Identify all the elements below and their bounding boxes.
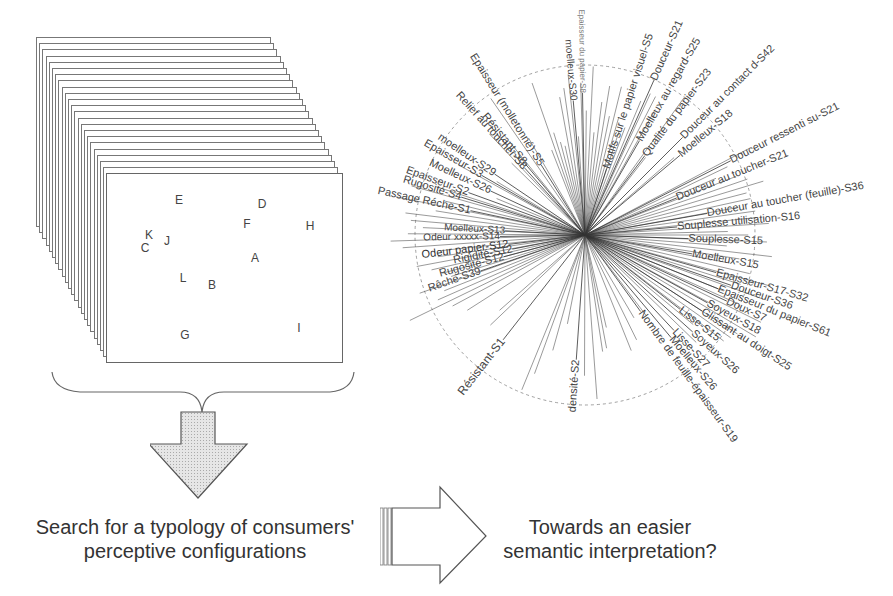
right-arrow-icon <box>380 485 490 585</box>
caption-right-line1: Towards an easier <box>490 515 730 539</box>
caption-left-line2: perceptive configurations <box>10 539 380 563</box>
caption-right-line2: semantic interpretation? <box>490 539 730 563</box>
product-point: E <box>175 193 183 207</box>
product-point: G <box>180 328 189 342</box>
product-point: D <box>258 197 267 211</box>
vector-line <box>585 235 693 325</box>
product-point: H <box>306 219 315 233</box>
vector-line <box>585 235 707 303</box>
down-arrow-icon <box>150 410 250 500</box>
product-point: F <box>243 217 250 231</box>
sample-sheets-stack: EDFHKJCALBGI <box>0 0 360 380</box>
variable-label: densité-S2 <box>566 359 582 412</box>
correlation-circle-plot: Epaisseur du papier-S8moelleux-S30Epaiss… <box>360 0 893 450</box>
caption-typology: Search for a typology of consumers' perc… <box>10 515 380 563</box>
caption-interpretation: Towards an easier semantic interpretatio… <box>490 515 730 563</box>
curly-brace <box>40 370 360 415</box>
product-point: C <box>141 241 150 255</box>
product-point: L <box>180 271 187 285</box>
product-point: B <box>208 278 216 292</box>
vector-line <box>585 155 680 235</box>
variable-label: moelleux-S30 <box>563 39 579 101</box>
product-point: A <box>251 251 259 265</box>
variable-label: Résistant-S1 <box>455 335 509 398</box>
product-point: K <box>145 228 153 242</box>
product-point: I <box>297 321 300 335</box>
sheet-front-map <box>106 173 343 363</box>
caption-left-line1: Search for a typology of consumers' <box>10 515 380 539</box>
vector-line <box>585 235 597 399</box>
product-point: J <box>164 234 170 248</box>
